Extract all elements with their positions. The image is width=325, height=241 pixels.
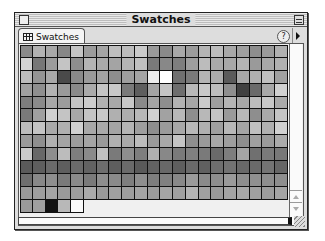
swatch[interactable] [211,122,224,135]
swatch[interactable] [122,174,135,187]
swatch[interactable] [58,174,71,187]
swatch[interactable] [122,187,135,200]
swatch[interactable] [237,97,250,110]
swatch[interactable] [250,58,263,71]
swatch[interactable] [237,71,250,84]
swatch[interactable] [275,174,288,187]
swatch[interactable] [148,122,161,135]
scroll-down-arrow-icon[interactable] [290,202,302,214]
swatch[interactable] [173,187,186,200]
swatch[interactable] [224,187,237,200]
swatch[interactable] [148,97,161,110]
swatch[interactable] [71,135,84,148]
swatch[interactable] [224,58,237,71]
swatch[interactable] [237,84,250,97]
swatch[interactable] [58,109,71,122]
swatch[interactable] [109,135,122,148]
swatch[interactable] [262,109,275,122]
swatch[interactable] [58,148,71,161]
swatch[interactable] [135,174,148,187]
swatch[interactable] [275,45,288,58]
swatch[interactable] [160,174,173,187]
swatch[interactable] [237,58,250,71]
swatch[interactable] [160,122,173,135]
swatch[interactable] [33,122,46,135]
swatch[interactable] [84,148,97,161]
swatch[interactable] [186,122,199,135]
swatch[interactable] [71,200,84,213]
swatch[interactable] [58,58,71,71]
close-box-icon[interactable] [19,15,29,25]
swatch[interactable] [58,84,71,97]
swatch[interactable] [135,84,148,97]
swatch[interactable] [33,58,46,71]
swatch[interactable] [122,135,135,148]
swatch[interactable] [71,161,84,174]
swatch[interactable] [186,187,199,200]
swatch[interactable] [33,84,46,97]
swatch[interactable] [58,97,71,110]
swatch[interactable] [46,109,59,122]
swatch[interactable] [211,84,224,97]
swatch[interactable] [199,174,212,187]
swatch[interactable] [186,109,199,122]
swatch[interactable] [20,148,33,161]
swatch[interactable] [250,161,263,174]
vertical-scrollbar[interactable] [289,44,302,225]
swatch[interactable] [46,45,59,58]
swatch[interactable] [84,187,97,200]
help-button[interactable]: ? [277,30,290,43]
swatch[interactable] [46,135,59,148]
swatch[interactable] [199,148,212,161]
swatch[interactable] [173,45,186,58]
swatch[interactable] [275,135,288,148]
swatch[interactable] [109,71,122,84]
swatch[interactable] [20,45,33,58]
horizontal-scrollbar[interactable] [18,217,292,225]
swatch[interactable] [160,161,173,174]
swatch[interactable] [275,58,288,71]
swatch[interactable] [33,45,46,58]
swatch[interactable] [199,161,212,174]
swatch[interactable] [173,58,186,71]
swatch[interactable] [237,122,250,135]
swatch[interactable] [20,200,33,213]
swatch[interactable] [135,148,148,161]
swatch[interactable] [84,161,97,174]
swatch[interactable] [250,109,263,122]
swatch[interactable] [262,97,275,110]
swatch[interactable] [33,200,46,213]
swatch[interactable] [224,45,237,58]
swatch[interactable] [262,135,275,148]
swatch[interactable] [20,135,33,148]
swatch[interactable] [71,187,84,200]
swatch[interactable] [20,58,33,71]
swatch[interactable] [199,187,212,200]
swatch[interactable] [84,71,97,84]
swatch[interactable] [109,109,122,122]
swatch[interactable] [46,97,59,110]
swatch[interactable] [20,84,33,97]
swatch[interactable] [160,148,173,161]
swatch[interactable] [148,174,161,187]
swatch[interactable] [109,187,122,200]
swatch[interactable] [224,71,237,84]
swatch[interactable] [148,58,161,71]
swatch[interactable] [173,71,186,84]
swatch[interactable] [135,109,148,122]
swatch[interactable] [148,71,161,84]
swatch[interactable] [211,187,224,200]
collapse-box-icon[interactable] [294,15,304,25]
swatch[interactable] [211,109,224,122]
swatch[interactable] [262,71,275,84]
swatch[interactable] [97,45,110,58]
swatch[interactable] [148,135,161,148]
swatch[interactable] [237,174,250,187]
swatch[interactable] [275,109,288,122]
swatch[interactable] [71,71,84,84]
swatch[interactable] [250,71,263,84]
swatch[interactable] [58,161,71,174]
swatch[interactable] [250,148,263,161]
swatch[interactable] [135,97,148,110]
swatch[interactable] [160,135,173,148]
